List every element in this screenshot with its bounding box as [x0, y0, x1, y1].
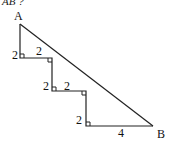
segment-label-h2: 2	[64, 79, 70, 93]
staircase-diagram: AB ? A B 2 2 2 2 2 4	[0, 0, 169, 141]
segment-label-v2: 2	[43, 79, 49, 93]
vertex-a-label: A	[14, 9, 23, 23]
segment-label-h1: 2	[36, 44, 42, 58]
vertex-b-label: B	[157, 127, 165, 141]
segment-label-v1: 2	[12, 48, 18, 62]
segment-label-h3: 4	[118, 126, 124, 140]
segment-label-v3: 2	[76, 113, 82, 127]
question-text: AB ?	[1, 0, 24, 7]
